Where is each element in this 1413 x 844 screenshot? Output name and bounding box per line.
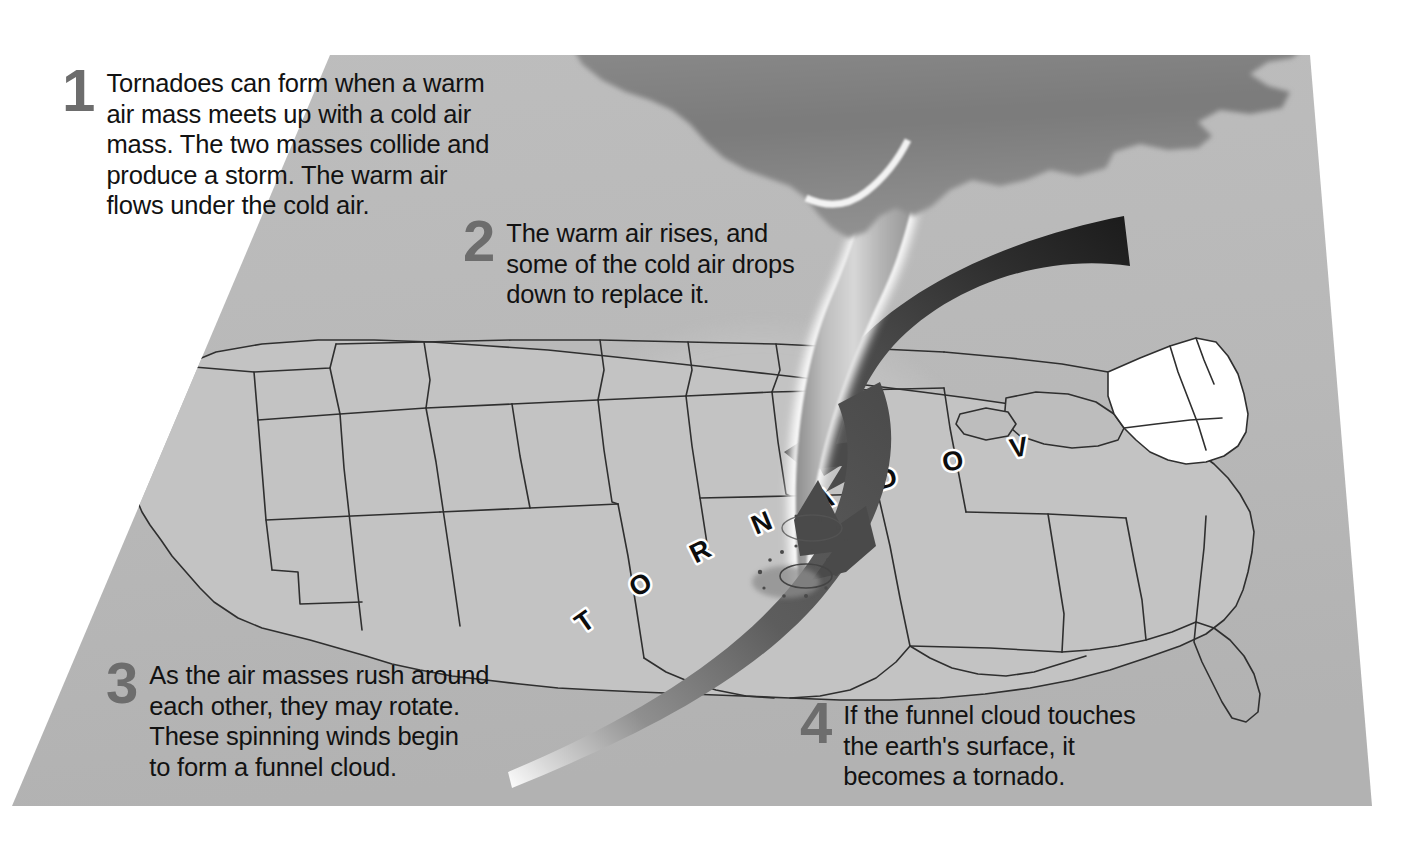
step-2-number: 2 (463, 218, 494, 264)
tornado-formation-diagram: T O R N A D O V A L L E Y (0, 0, 1413, 844)
step-2-callout: 2 The warm air rises, and some of the co… (463, 218, 794, 310)
step-1-text: Tornadoes can form when a warm air mass … (106, 68, 489, 221)
step-4-text: If the funnel cloud touches the earth's … (843, 700, 1135, 792)
step-3-callout: 3 As the air masses rush around each oth… (106, 660, 489, 782)
step-4-number: 4 (800, 700, 831, 746)
step-1-callout: 1 Tornadoes can form when a warm air mas… (62, 68, 489, 221)
step-2-text: The warm air rises, and some of the cold… (506, 218, 794, 310)
step-3-number: 3 (106, 660, 137, 706)
step-3-text: As the air masses rush around each other… (149, 660, 489, 782)
step-1-number: 1 (62, 68, 94, 114)
step-4-callout: 4 If the funnel cloud touches the earth'… (800, 700, 1136, 792)
